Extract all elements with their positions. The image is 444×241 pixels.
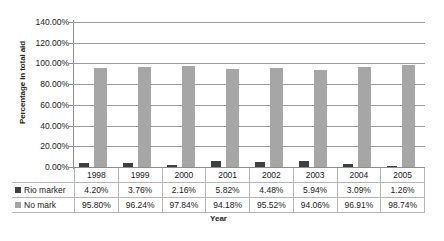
bar-rio-marker [255, 162, 265, 167]
bar-group [249, 22, 293, 167]
data-cell: 97.84% [162, 198, 206, 213]
bar-chart: Percentage in total aid 0.00%20.00%40.00… [0, 0, 444, 241]
bar-no-mark [358, 67, 371, 167]
category-header-cell: 1998 [75, 168, 119, 183]
bar-group [293, 22, 337, 167]
y-axis-tick-label: 40.00% [1, 121, 69, 131]
y-axis-tick-label: 80.00% [1, 79, 69, 89]
bar-group [117, 22, 161, 167]
bar-no-mark [182, 66, 195, 167]
category-header-cell: 2001 [206, 168, 250, 183]
y-axis-tick-mark [69, 167, 73, 168]
data-cell: 95.52% [250, 198, 294, 213]
table-row: Rio marker4.20%3.76%2.16%5.82%4.48%5.94%… [12, 183, 425, 198]
category-header-cell: 1999 [118, 168, 162, 183]
bar-rio-marker [299, 161, 309, 167]
bar-no-mark [402, 65, 415, 167]
legend-entry-rio-marker: Rio marker [12, 183, 75, 198]
bar-rio-marker [123, 163, 133, 167]
legend-label: Rio marker [24, 185, 66, 195]
data-table: 19981999200020012002200320042005Rio mark… [12, 168, 425, 213]
data-cell: 5.82% [206, 183, 250, 198]
category-header-cell: 2000 [162, 168, 206, 183]
data-cell: 2.16% [162, 183, 206, 198]
y-axis-tick-mark [69, 105, 73, 106]
bar-rio-marker [79, 163, 89, 167]
legend-label: No mark [24, 200, 56, 210]
bar-rio-marker [387, 166, 397, 167]
category-header-cell: 2003 [293, 168, 337, 183]
legend-entry-no-mark: No mark [12, 198, 75, 213]
bar-rio-marker [343, 164, 353, 167]
legend-swatch-icon [15, 202, 21, 208]
category-header-cell: 2002 [250, 168, 294, 183]
bar-rio-marker [167, 165, 177, 167]
bar-series-container [73, 22, 425, 167]
data-cell: 96.24% [118, 198, 162, 213]
data-cell: 3.09% [337, 183, 381, 198]
table-header-row: 19981999200020012002200320042005 [12, 168, 425, 183]
bar-group [161, 22, 205, 167]
x-axis-title: Year [12, 214, 425, 223]
data-cell: 98.74% [381, 198, 425, 213]
bar-group [73, 22, 117, 167]
bar-rio-marker [211, 161, 221, 167]
bar-no-mark [94, 68, 107, 167]
category-header-cell: 2004 [337, 168, 381, 183]
y-axis-tick-label: 100.00% [1, 58, 69, 68]
data-cell: 94.06% [293, 198, 337, 213]
data-cell: 95.80% [75, 198, 119, 213]
data-cell: 96.91% [337, 198, 381, 213]
y-axis-tick-mark [69, 146, 73, 147]
y-axis-tick-label: 20.00% [1, 141, 69, 151]
bar-no-mark [226, 69, 239, 167]
table-row: No mark95.80%96.24%97.84%94.18%95.52%94.… [12, 198, 425, 213]
y-axis-tick-mark [69, 84, 73, 85]
bar-no-mark [138, 67, 151, 167]
table-corner-cell [12, 168, 75, 183]
data-cell: 5.94% [293, 183, 337, 198]
y-axis-tick-label: 60.00% [1, 100, 69, 110]
y-axis-tick-label: 140.00% [1, 17, 69, 27]
bar-no-mark [270, 68, 283, 167]
data-cell: 94.18% [206, 198, 250, 213]
y-axis-tick-label: 120.00% [1, 38, 69, 48]
bar-group [337, 22, 381, 167]
category-header-cell: 2005 [381, 168, 425, 183]
plot-area [73, 22, 425, 167]
y-axis-tick-mark [69, 126, 73, 127]
data-cell: 1.26% [381, 183, 425, 198]
y-axis-tick-mark [69, 22, 73, 23]
bar-group [381, 22, 425, 167]
bar-group [205, 22, 249, 167]
data-cell: 3.76% [118, 183, 162, 198]
y-axis-tick-mark [69, 43, 73, 44]
data-cell: 4.20% [75, 183, 119, 198]
y-axis-tick-mark [69, 63, 73, 64]
legend-swatch-icon [15, 187, 21, 193]
bar-no-mark [314, 70, 327, 167]
data-cell: 4.48% [250, 183, 294, 198]
